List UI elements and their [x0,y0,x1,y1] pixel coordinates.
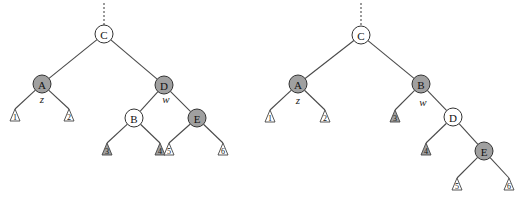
edge-B-L3 [107,124,127,143]
node-annotation-w: w [162,93,170,105]
subtree-2: 2 [64,109,74,122]
left-tree: 123456CAzDwBE [10,3,228,156]
node-A: Az [33,75,51,105]
node-annotation-w: w [419,96,427,108]
subtree-4: 4 [421,143,431,156]
subtree-label: 1 [13,113,17,122]
node-E: E [475,142,493,160]
subtree-1: 1 [265,110,275,123]
edge-A-L1 [270,90,291,110]
edge-B-L3 [395,90,415,110]
subtree-6: 6 [218,143,228,156]
node-label: C [357,30,364,42]
node-label: D [160,80,168,92]
subtree-label: 5 [167,147,171,156]
node-C: C [95,25,113,43]
edge-D-B [140,92,158,112]
node-B: Bw [412,75,430,108]
edge-A-L1 [15,90,35,109]
subtree-label: 2 [67,113,71,122]
edge-C-B [368,41,414,79]
node-label: A [294,79,302,91]
edge-A-L2 [304,90,325,110]
subtree-label: 6 [221,147,225,156]
node-label: D [449,112,457,124]
subtree-label: 3 [393,114,397,123]
subtree-5: 5 [164,143,174,156]
subtree-label: 1 [268,114,272,123]
node-C: C [352,26,370,44]
edge-D-L4 [426,123,447,143]
edge-C-D [111,40,157,79]
edge-C-A [49,40,97,79]
edge-C-A [305,41,354,79]
subtree-label: 6 [507,182,511,191]
node-label: A [38,79,46,91]
subtree-3: 3 [102,143,112,156]
node-label: E [481,146,488,158]
subtree-label: 3 [105,147,109,156]
node-D: Dw [155,76,173,105]
subtree-5: 5 [452,178,462,191]
node-label: E [194,113,201,125]
edge-E-L5 [457,157,478,178]
edge-B-L4 [140,124,160,143]
edge-E-L6 [203,124,223,143]
node-B: B [125,109,143,127]
subtree-1: 1 [10,109,20,122]
subtree-6: 6 [504,178,514,191]
edge-D-E [170,91,190,111]
subtree-label: 4 [158,147,162,156]
tree-rotation-diagram: 123456CAzDwBE 123456CAzBwDE [0,0,522,197]
edge-E-L6 [490,158,509,178]
node-label: B [130,113,137,125]
edge-B-D [427,90,446,110]
subtree-4: 4 [155,143,165,156]
subtree-label: 5 [455,182,459,191]
right-tree: 123456CAzBwDE [265,3,514,191]
node-label: C [100,29,107,41]
node-E: E [188,109,206,127]
edge-A-L2 [49,90,69,109]
node-annotation-z: z [295,94,301,106]
node-annotation-z: z [39,93,45,105]
node-A: Az [289,75,307,106]
subtree-2: 2 [320,110,330,123]
subtree-3: 3 [390,110,400,123]
subtree-label: 2 [323,114,327,123]
node-D: D [444,108,462,126]
edge-D-E [459,124,478,145]
subtree-label: 4 [424,147,428,156]
node-label: B [417,79,424,91]
edge-E-L5 [169,124,190,143]
